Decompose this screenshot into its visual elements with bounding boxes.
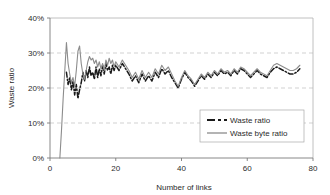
y-tick-label-40: 40% <box>28 14 44 23</box>
y-tick-label-10: 10% <box>28 119 44 128</box>
x-axis-title: Number of links <box>156 183 212 192</box>
y-tick-label-20: 20% <box>28 84 44 93</box>
y-tick-label-0: 0% <box>32 154 44 163</box>
x-tick-label-60: 60 <box>243 164 252 173</box>
x-tick-label-20: 20 <box>111 164 120 173</box>
x-axis: 020406080 <box>48 158 318 173</box>
y-axis-title: Waste ratio <box>7 67 16 108</box>
x-tick-label-40: 40 <box>177 164 186 173</box>
x-tick-label-80: 80 <box>309 164 318 173</box>
legend-label-waste-ratio: Waste ratio <box>230 116 271 125</box>
y-tick-label-30: 30% <box>28 49 44 58</box>
chart-container: 0%10%20%30%40% 020406080 Waste ratio Num… <box>0 0 330 195</box>
waste-ratio-line-chart: 0%10%20%30%40% 020406080 Waste ratio Num… <box>0 0 330 195</box>
legend-label-waste-byte-ratio: Waste byte ratio <box>230 129 288 138</box>
chart-legend: Waste ratio Waste byte ratio <box>200 110 304 142</box>
y-axis: 0%10%20%30%40% <box>28 14 50 163</box>
x-tick-label-0: 0 <box>48 164 53 173</box>
